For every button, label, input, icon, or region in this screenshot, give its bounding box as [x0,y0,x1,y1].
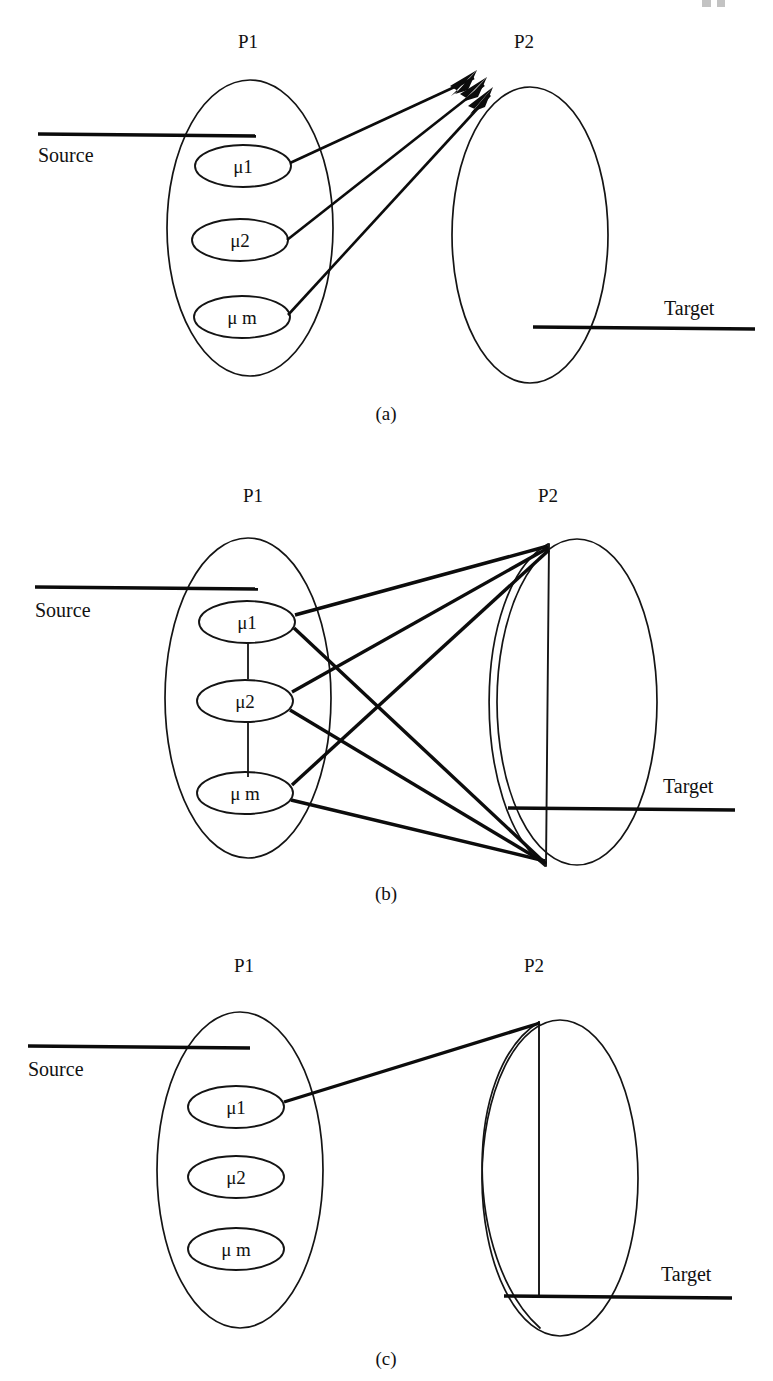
panel-b-set-left-label: P1 [243,485,263,506]
panel-c-target-line [504,1296,732,1298]
panel-b-caption: (b) [375,883,397,905]
panel-a-node-mu1-label: μ1 [233,156,253,177]
panel-b: P1 P2 Source Target μ1 [0,460,773,920]
panel-c-set-right-label: P2 [524,955,544,976]
panel-b-node-mu1: μ1 [199,601,295,643]
panel-b-node-mu1-label: μ1 [237,612,257,633]
panel-c-node-mum: μ m [188,1228,284,1270]
panel-a-source-line [38,134,256,136]
panel-b-edge-mu1-to-top [295,546,548,615]
panel-c: P1 P2 Source Target μ1 μ2 μ m [0,930,773,1381]
panel-c-node-mu1: μ1 [188,1086,284,1128]
panel-a-node-mu2-label: μ2 [230,230,250,251]
panel-c-source-label: Source [28,1058,84,1080]
panel-b-edge-mu2-to-bottom [290,710,545,863]
panel-a-caption: (a) [375,403,396,425]
panel-c-node-mu1-label: μ1 [226,1097,246,1118]
panel-c-caption: (c) [375,1348,396,1370]
panel-b-edge-mu1-to-bottom [294,628,546,864]
panel-c-source-line [28,1046,250,1048]
panel-b-target-line [508,808,735,810]
panel-b-set-p2-ellipse [497,539,657,865]
panel-a-node-mum-label: μ m [227,307,257,328]
panel-b-edge-mum-to-top [292,550,549,785]
panel-b-node-mum-label: μ m [230,783,260,804]
panel-b-set-right-label: P2 [538,485,558,506]
panel-c-set-left-label: P1 [234,955,254,976]
panel-c-node-mum-label: μ m [221,1239,251,1260]
panel-b-source-line [35,587,258,589]
panel-a-edge-mu2-to-p2 [287,77,487,240]
panel-a-edge-mum-to-p2 [288,87,493,315]
panel-b-node-mum: μ m [197,772,293,814]
panel-c-node-mu2-label: μ2 [226,1167,246,1188]
panel-c-set-p2-inner-arc [482,1022,540,1328]
panel-b-target-label: Target [663,775,714,798]
panel-c-edge-mu1-to-top [284,1023,540,1102]
panel-b-set-p2-chord [546,544,549,866]
panel-a: P1 P2 Source Target μ1 μ2 μ m [0,0,773,450]
panel-a-edge-mu1-to-p2 [290,70,477,163]
panel-c-set-p2-ellipse [482,1020,638,1336]
panel-a-set-left-label: P1 [238,31,258,52]
panel-a-node-mu1: μ1 [195,145,291,187]
panel-b-source-label: Source [35,599,91,621]
panel-a-set-p2-ellipse [452,87,608,383]
panel-a-node-mum: μ m [194,296,290,338]
panel-a-set-p1-ellipse [167,80,333,376]
panel-c-node-mu2: μ2 [188,1156,284,1198]
panel-b-node-mu2: μ2 [197,680,293,722]
panel-b-edge-mu2-to-top [292,548,548,692]
panel-a-target-line [533,327,755,329]
panel-a-node-mu2: μ2 [192,219,288,261]
panel-a-source-label: Source [38,144,94,166]
figure-root: P1 P2 Source Target μ1 μ2 μ m [0,0,773,1381]
panel-a-set-right-label: P2 [514,31,534,52]
panel-c-target-label: Target [661,1263,712,1286]
panel-a-target-label: Target [664,297,715,320]
panel-b-node-mu2-label: μ2 [235,691,255,712]
